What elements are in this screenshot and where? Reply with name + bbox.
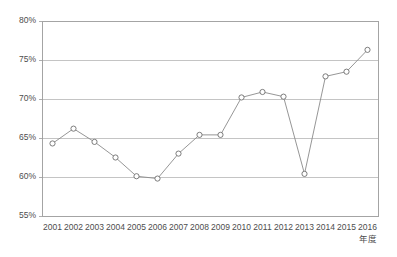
x-tick-label: 2007	[169, 222, 188, 232]
data-point-marker	[323, 74, 328, 79]
chart-canvas: 55%60%65%70%75%80% 200120022003200420052…	[0, 0, 397, 257]
x-tick-label: 2014	[316, 222, 335, 232]
x-tick-label: 2011	[253, 222, 272, 232]
data-point-marker	[134, 174, 139, 179]
data-point-marker	[260, 89, 265, 94]
y-tick-label: 80%	[19, 15, 36, 25]
x-tick-label: 2001	[43, 222, 62, 232]
data-point-marker	[239, 95, 244, 100]
y-tick-label: 65%	[19, 132, 36, 142]
x-tick-label: 2002	[64, 222, 83, 232]
data-point-marker	[197, 132, 202, 137]
x-tick-label: 2006	[148, 222, 167, 232]
data-point-marker	[344, 69, 349, 74]
x-tick-label: 2012	[274, 222, 293, 232]
data-point-marker	[281, 94, 286, 99]
x-tick-label: 2015	[337, 222, 356, 232]
x-tick-label: 2005	[127, 222, 146, 232]
y-tick-label: 70%	[19, 93, 36, 103]
data-point-markers	[50, 47, 370, 181]
data-point-marker	[218, 132, 223, 137]
data-point-marker	[92, 139, 97, 144]
y-tick-label: 55%	[19, 210, 36, 220]
x-axis-title: 年度	[359, 234, 377, 244]
x-tick-label: 2013	[295, 222, 314, 232]
x-tick-label: 2003	[85, 222, 104, 232]
data-series-line	[53, 50, 368, 179]
plot-area-border	[42, 21, 378, 216]
x-axis-tick-labels: 2001200220032004200520062007200820092010…	[43, 222, 377, 232]
data-point-marker	[50, 141, 55, 146]
x-tick-label: 2009	[211, 222, 230, 232]
data-point-marker	[365, 47, 370, 52]
data-point-marker	[113, 155, 118, 160]
data-point-marker	[176, 151, 181, 156]
data-point-marker	[302, 171, 307, 176]
data-point-marker	[71, 126, 76, 131]
x-tick-label: 2004	[106, 222, 125, 232]
y-axis-tick-labels: 55%60%65%70%75%80%	[19, 15, 36, 220]
y-tick-label: 75%	[19, 54, 36, 64]
x-tick-label: 2010	[232, 222, 251, 232]
line-chart: 55%60%65%70%75%80% 200120022003200420052…	[0, 0, 397, 257]
x-tick-label: 2008	[190, 222, 209, 232]
y-tick-label: 60%	[19, 171, 36, 181]
x-tick-label: 2016	[358, 222, 377, 232]
data-point-marker	[155, 176, 160, 181]
